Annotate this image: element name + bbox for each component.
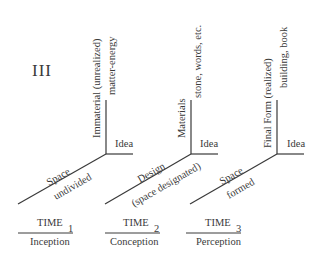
axis-3-vertical-sublabel: building, book bbox=[279, 27, 290, 88]
time-1-subscript: 1 bbox=[68, 223, 73, 234]
time-2-label: TIME bbox=[123, 218, 149, 229]
axis-2-horizontal-label: Idea bbox=[200, 139, 218, 150]
time-3-label: TIME bbox=[205, 218, 231, 229]
time-3-caption: Perception bbox=[196, 237, 241, 248]
axis-1-vertical-label: Immaterial (unrealized) bbox=[92, 39, 103, 138]
time-2-caption: Conception bbox=[110, 237, 158, 248]
axis-2-vertical-label: Materials bbox=[177, 98, 188, 138]
axis-2-vertical-sublabel: stone, words, etc. bbox=[193, 25, 204, 98]
axis-1-horizontal-label: Idea bbox=[115, 139, 133, 150]
axis-1-vertical-sublabel: matter-energy bbox=[107, 37, 118, 95]
diagram-canvas: III Immaterial (unrealized) matter-energ… bbox=[0, 0, 323, 265]
time-1-caption: Inception bbox=[30, 237, 70, 248]
time-2-subscript: 2 bbox=[154, 223, 159, 234]
axis-3-horizontal-label: Idea bbox=[287, 139, 305, 150]
axis-3-vertical-label: Final Form (realized) bbox=[263, 58, 274, 148]
time-3-subscript: 3 bbox=[236, 223, 241, 234]
time-1-label: TIME bbox=[37, 218, 63, 229]
panel-label: III bbox=[32, 62, 52, 79]
